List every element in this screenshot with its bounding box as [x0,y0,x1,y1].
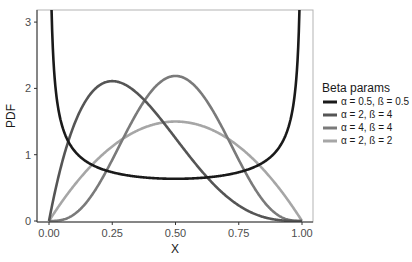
x-tick-label: 0.00 [38,227,59,239]
y-axis-title: PDF [4,104,18,128]
x-tick-label: 0.50 [165,227,186,239]
legend-title: Beta params [322,81,390,95]
beta-pdf-chart: 0.000.250.500.751.00 0123 X PDF Beta par… [0,0,412,262]
legend-items: α = 0.5, ß = 0.5α = 2, ß = 4α = 4, ß = 4… [323,96,409,146]
y-tick-label: 3 [25,16,31,28]
plot-area [37,0,313,222]
legend-label: α = 2, ß = 4 [341,109,393,120]
y-tick-label: 1 [25,149,31,161]
x-axis-title: X [171,242,179,256]
x-tick-label: 0.25 [102,227,123,239]
x-tick-label: 0.75 [228,227,249,239]
legend-label: α = 0.5, ß = 0.5 [341,96,409,107]
y-tick-label: 0 [25,215,31,227]
legend-label: α = 4, ß = 4 [341,122,393,133]
x-tick-label: 1.00 [291,227,312,239]
legend: Beta params α = 0.5, ß = 0.5α = 2, ß = 4… [322,81,409,146]
x-axis-ticks: 0.000.250.500.751.00 [38,222,312,239]
legend-label: α = 2, ß = 2 [341,135,393,146]
y-axis-ticks: 0123 [25,16,37,227]
y-tick-label: 2 [25,82,31,94]
